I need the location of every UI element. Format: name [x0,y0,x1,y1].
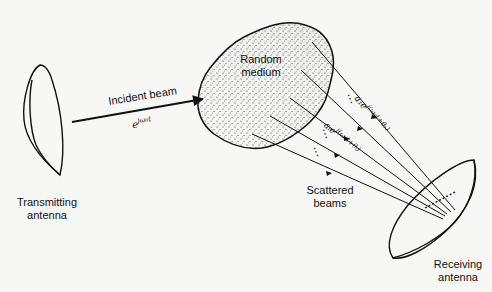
diagram-canvas [0,0,492,292]
medium-label-line1: Random [231,53,291,66]
receiving-antenna-label: Receiving antenna [425,258,491,284]
transmitting-label-line2: antenna [12,209,82,222]
random-medium-label: Random medium [231,53,291,79]
random-medium-blob [198,23,334,149]
transmitting-label-line1: Transmitting [12,196,82,209]
scattered-beams-label: Scattered beams [300,184,360,210]
transmitting-antenna-label: Transmitting antenna [12,196,82,222]
medium-label-line2: medium [231,66,291,79]
transmitting-antenna-icon [24,65,63,175]
receiving-label-line2: antenna [425,271,491,284]
incident-expression-exponent: jω₀t [137,115,152,125]
scattered-label-line1: Scattered [300,184,360,197]
receiving-label-line1: Receiving [425,258,491,271]
scattered-label-line2: beams [300,197,360,210]
